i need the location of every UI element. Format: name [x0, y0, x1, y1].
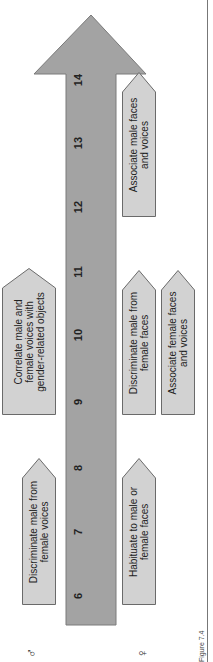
box-label: Correlate male and female voices with ge… — [13, 292, 46, 392]
box-discriminate-voices: Discriminate male from female voices — [22, 458, 56, 605]
box-label: Associate female faces and voices — [167, 291, 189, 394]
tick-11: 11 — [71, 260, 85, 284]
figure-caption: Figure 7.4 — [198, 630, 205, 662]
box-associate-female: Associate female faces and voices — [161, 270, 195, 415]
box-label: Discriminate male from female faces — [128, 291, 150, 393]
tick-13: 13 — [71, 131, 85, 155]
box-label: Associate male faces and voices — [128, 97, 150, 192]
box-correlate-voices-objects: Correlate male and female voices with ge… — [2, 268, 56, 415]
tick-9: 9 — [71, 390, 85, 414]
tick-6: 6 — [71, 584, 85, 608]
male-symbol-icon: ♂ — [23, 648, 39, 659]
tick-10: 10 — [71, 323, 85, 347]
box-label: Discriminate male from female voices — [28, 480, 50, 582]
tick-7: 7 — [71, 520, 85, 544]
female-symbol-icon: ♀ — [134, 648, 150, 659]
tick-12: 12 — [71, 195, 85, 219]
box-discriminate-faces: Discriminate male from female faces — [122, 270, 156, 415]
box-label: Habituate to male or female faces — [128, 486, 150, 576]
tick-14: 14 — [71, 68, 85, 92]
box-associate-male: Associate male faces and voices — [122, 72, 156, 217]
tick-8: 8 — [71, 456, 85, 480]
box-habituate-faces: Habituate to male or female faces — [122, 458, 156, 605]
